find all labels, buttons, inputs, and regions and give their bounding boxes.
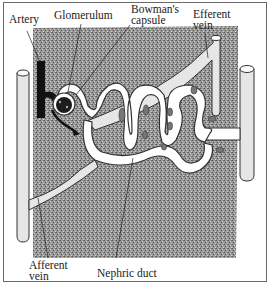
footer-marks — [3, 286, 33, 290]
label-bowmans-capsule-line2: capsule — [131, 15, 165, 26]
label-afferent-vein-line2: vein — [29, 271, 49, 282]
label-nephric-duct: Nephric duct — [97, 268, 157, 279]
glomerulus — [53, 93, 75, 115]
nephron-illustration — [0, 0, 272, 295]
label-glomerulum: Glomerulum — [54, 10, 113, 21]
label-artery: Artery — [9, 14, 39, 25]
label-efferent-vein-line2: vein — [193, 20, 213, 31]
